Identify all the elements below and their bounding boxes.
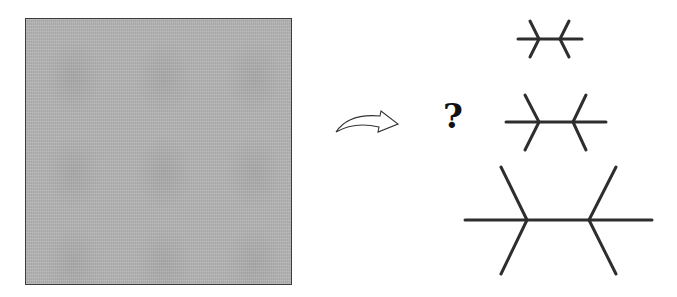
figure-large bbox=[465, 167, 652, 274]
question-mark: ? bbox=[443, 96, 463, 136]
curved-arrow-icon bbox=[334, 108, 402, 138]
texture-image bbox=[25, 18, 292, 285]
figure-small bbox=[518, 21, 582, 57]
figure-medium bbox=[506, 95, 606, 150]
